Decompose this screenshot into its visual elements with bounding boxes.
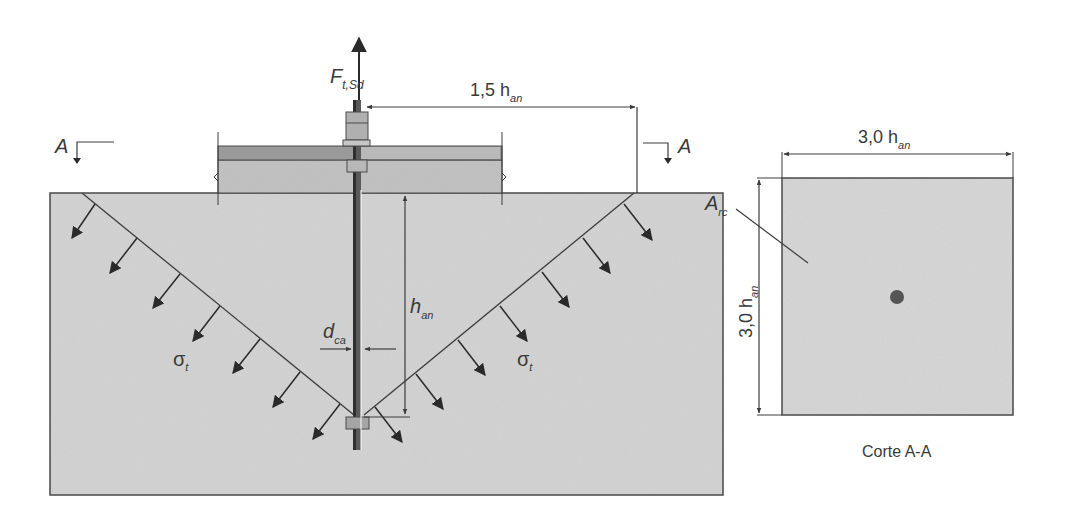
section-view: 3,0 han 3,0 han Arc Corte A-A <box>704 127 1013 460</box>
section-marker-left: A <box>54 135 114 164</box>
svg-text:A: A <box>54 135 68 157</box>
svg-text:A: A <box>677 135 691 157</box>
section-caption: Corte A-A <box>862 443 932 460</box>
anchor-cone-diagram: Ft,Sd 1,5 han A A <box>0 0 1069 525</box>
concrete-block <box>50 193 723 495</box>
section-height-label: 3,0 han <box>736 286 760 338</box>
main-view: Ft,Sd 1,5 han A A <box>50 38 723 495</box>
anchor-dot <box>890 290 904 304</box>
section-marker-right: A <box>643 135 691 164</box>
dim-top-label: 1,5 han <box>470 80 522 104</box>
section-width-label: 3,0 han <box>858 127 910 151</box>
